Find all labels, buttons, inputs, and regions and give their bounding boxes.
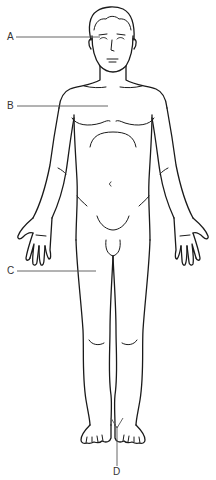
left-foot: [81, 425, 111, 443]
label-a: A: [7, 32, 14, 42]
left-arm: [33, 108, 74, 218]
left-hand: [18, 218, 52, 265]
groin: [106, 240, 120, 256]
anatomy-figure: A B C D: [0, 0, 216, 480]
right-leg: [113, 240, 150, 425]
right-hand: [174, 218, 208, 265]
torso: [59, 66, 167, 240]
head: [89, 7, 136, 72]
label-b: B: [7, 101, 14, 111]
label-c: C: [7, 266, 14, 276]
left-leg: [76, 240, 113, 425]
label-d: D: [113, 467, 120, 477]
right-arm: [152, 108, 193, 218]
body-outline-drawing: [0, 0, 216, 480]
right-foot: [115, 425, 145, 443]
